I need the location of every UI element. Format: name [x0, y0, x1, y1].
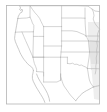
coastline-baja-east-gulf [37, 74, 50, 101]
border-ok-ar [87, 52, 89, 68]
state-borders-west [15, 6, 61, 82]
border-or-id [30, 17, 34, 32]
coastline-washington [18, 6, 23, 19]
border-ca-az-river [33, 57, 37, 71]
map-figure [0, 0, 107, 112]
coastline-gulf-texas [76, 87, 94, 101]
state-borders-plains [61, 6, 94, 87]
border-canada-usa [21, 6, 100, 12]
border-co-ks [61, 46, 62, 57]
border-az-mexico [37, 72, 44, 76]
coastline-oregon [15, 19, 17, 33]
border-id-mt [30, 6, 44, 27]
border-sd-ne [62, 31, 86, 36]
border-wa-or [18, 17, 30, 18]
border-tx-mexico-rio-grande [61, 74, 76, 101]
northern-border-group [21, 6, 100, 12]
coastline-baja-west [32, 71, 44, 103]
pacific-coastline-group [15, 6, 50, 103]
us-outline-map [0, 0, 107, 112]
border-nm-mexico [44, 80, 61, 82]
shaded-lower-plains [91, 64, 100, 86]
texas-outline-group [61, 74, 94, 101]
map-frame [7, 6, 100, 105]
border-ca-nv [22, 32, 33, 57]
border-ok-tx-red-river [67, 63, 87, 68]
border-sd-east [85, 18, 86, 36]
